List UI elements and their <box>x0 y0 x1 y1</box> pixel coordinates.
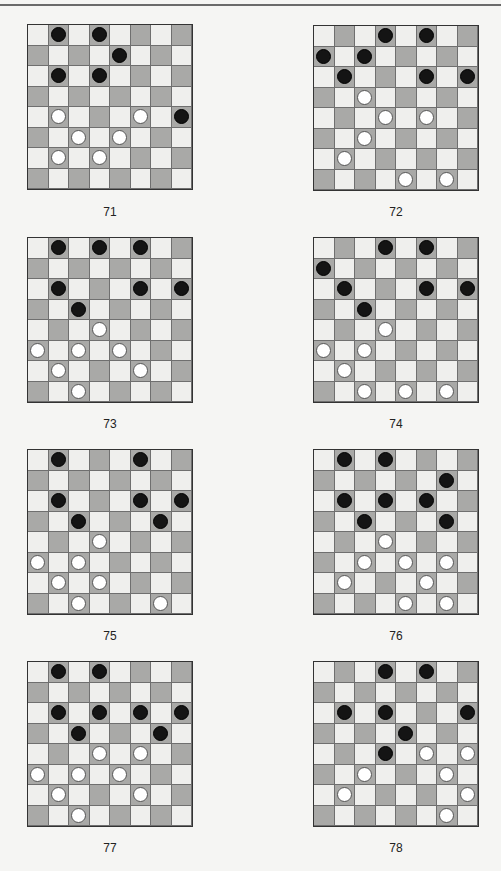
dark-square <box>110 169 131 190</box>
dark-square <box>69 512 90 533</box>
light-square <box>437 662 458 683</box>
light-square <box>172 512 193 533</box>
light-square <box>69 573 90 594</box>
dark-square <box>376 238 397 259</box>
light-square <box>396 744 417 765</box>
dark-square <box>417 573 438 594</box>
dark-square <box>49 320 70 341</box>
light-square <box>28 450 49 471</box>
light-square <box>458 594 479 615</box>
black-checker-piece <box>92 240 107 255</box>
light-square <box>458 806 479 827</box>
white-checker-piece <box>316 343 331 358</box>
dark-square <box>355 300 376 321</box>
light-square <box>376 806 397 827</box>
dark-square <box>417 450 438 471</box>
dark-square <box>69 471 90 492</box>
light-square <box>110 148 131 169</box>
light-square <box>458 724 479 745</box>
dark-square <box>376 662 397 683</box>
dark-square <box>314 806 335 827</box>
dark-square <box>376 361 397 382</box>
light-square <box>110 25 131 46</box>
light-square <box>49 806 70 827</box>
dark-square <box>151 512 172 533</box>
light-square <box>131 341 152 362</box>
dark-square <box>151 553 172 574</box>
black-checker-piece <box>51 705 66 720</box>
light-square <box>376 512 397 533</box>
dark-square <box>110 553 131 574</box>
dark-square <box>49 491 70 512</box>
dark-square <box>355 553 376 574</box>
light-square <box>437 361 458 382</box>
dark-square <box>335 67 356 88</box>
light-square <box>417 170 438 191</box>
light-square <box>376 88 397 109</box>
light-square <box>458 683 479 704</box>
light-square <box>376 259 397 280</box>
dark-square <box>355 765 376 786</box>
dark-square <box>131 785 152 806</box>
dark-square <box>49 744 70 765</box>
white-checker-piece <box>378 322 393 337</box>
light-square <box>49 765 70 786</box>
dark-square <box>172 491 193 512</box>
dark-square <box>458 703 479 724</box>
light-square <box>110 532 131 553</box>
dark-square <box>110 683 131 704</box>
dark-square <box>314 47 335 68</box>
dark-square <box>355 594 376 615</box>
light-square <box>458 170 479 191</box>
white-checker-piece <box>357 767 372 782</box>
dark-square <box>131 148 152 169</box>
white-checker-piece <box>71 808 86 823</box>
white-checker-piece <box>378 110 393 125</box>
dark-square <box>131 279 152 300</box>
dark-square <box>28 683 49 704</box>
light-square <box>437 744 458 765</box>
light-square <box>69 785 90 806</box>
light-square <box>49 46 70 67</box>
light-square <box>417 88 438 109</box>
diagram-78 <box>313 661 479 827</box>
light-square <box>314 26 335 47</box>
black-checker-piece <box>378 746 393 761</box>
dark-square <box>28 806 49 827</box>
white-checker-piece <box>439 172 454 187</box>
light-square <box>314 532 335 553</box>
black-checker-piece <box>419 493 434 508</box>
black-checker-piece <box>419 69 434 84</box>
light-square <box>396 662 417 683</box>
white-checker-piece <box>460 746 475 761</box>
dark-square <box>335 744 356 765</box>
dark-square <box>376 450 397 471</box>
dark-square <box>355 129 376 150</box>
light-square <box>28 238 49 259</box>
white-checker-piece <box>398 172 413 187</box>
dark-square <box>172 450 193 471</box>
dark-square <box>28 765 49 786</box>
black-checker-piece <box>174 281 189 296</box>
dark-square <box>314 259 335 280</box>
dark-square <box>49 107 70 128</box>
light-square <box>172 382 193 403</box>
dark-square <box>90 279 111 300</box>
dark-square <box>437 47 458 68</box>
dark-square <box>335 785 356 806</box>
light-square <box>335 47 356 68</box>
dark-square <box>437 300 458 321</box>
dark-square <box>396 259 417 280</box>
light-square <box>314 279 335 300</box>
light-square <box>314 108 335 129</box>
light-square <box>172 128 193 149</box>
white-checker-piece <box>419 110 434 125</box>
dark-square <box>49 25 70 46</box>
light-square <box>417 300 438 321</box>
light-square <box>90 683 111 704</box>
dark-square <box>458 238 479 259</box>
light-square <box>172 169 193 190</box>
dark-square <box>131 491 152 512</box>
white-checker-piece <box>337 575 352 590</box>
dark-square <box>437 553 458 574</box>
